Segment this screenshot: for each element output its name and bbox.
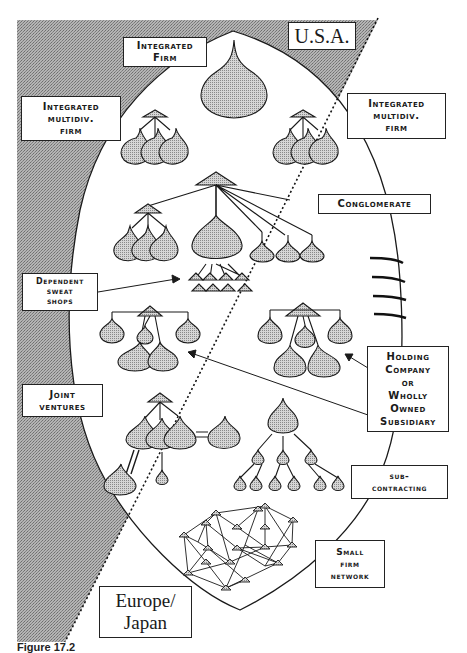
region-label-europe-japan: Europe/ Japan — [99, 586, 192, 638]
label-line: Integrated — [137, 40, 194, 52]
label-line: Small — [336, 546, 364, 558]
label-line: Joint — [50, 389, 76, 401]
label-dependent-sweat-shops: Dependent sweat shops — [22, 273, 98, 311]
label-line: multidiv. — [48, 113, 94, 125]
label-sub-contracting: sub- contracting — [351, 465, 448, 499]
label-line: Holding — [387, 350, 430, 363]
label-line: network — [331, 570, 369, 582]
label-integrated-multidiv-right: Integrated multidiv. firm — [347, 93, 446, 139]
sweat-shops-shape — [189, 264, 252, 291]
label-line: Dependent — [36, 277, 84, 287]
label-line: sub- — [390, 470, 410, 482]
multidiv-right-shape — [273, 110, 338, 164]
label-line: contracting — [372, 482, 427, 494]
label-line: Integrated — [43, 101, 100, 113]
label-line: Subsidiary — [380, 415, 436, 428]
label-small-firm-network: Small firm network — [315, 540, 385, 588]
label-conglomerate: Conglomerate — [318, 194, 431, 214]
label-line: Firm — [153, 52, 177, 64]
figure-caption: Figure 17.2 — [17, 641, 75, 653]
label-joint-ventures: Joint ventures — [22, 384, 103, 417]
holding-company-right-shape — [258, 303, 352, 377]
label-line: sweat — [47, 287, 73, 297]
label-line: Company — [385, 363, 430, 376]
multidiv-left-shape — [121, 110, 188, 164]
label-line: Wholly — [388, 389, 427, 402]
japan-text: Japan — [124, 612, 167, 634]
usa-text: U.S.A. — [294, 25, 349, 47]
label-line: or — [402, 376, 415, 389]
label-line: firm — [60, 125, 82, 137]
label-line: firm — [340, 558, 359, 570]
holding-company-left-shape — [100, 306, 200, 371]
joint-ventures-shape — [104, 393, 240, 495]
integrated-firm-shape — [201, 40, 267, 118]
subcontracting-shape — [234, 398, 344, 491]
label-line: firm — [385, 122, 407, 134]
europe-text: Europe/ — [115, 590, 175, 612]
conglomerate-shape — [114, 172, 324, 262]
label-line: Integrated — [368, 98, 425, 110]
label-line: multidiv. — [373, 110, 419, 122]
label-line: ventures — [39, 401, 86, 413]
label-line: shops — [47, 297, 73, 307]
label-line: Owned — [390, 402, 426, 415]
label-line: Conglomerate — [338, 198, 412, 210]
label-integrated-multidiv-left: Integrated multidiv. firm — [21, 96, 121, 141]
small-firm-network-shape — [179, 503, 298, 590]
region-label-usa: U.S.A. — [288, 22, 356, 50]
label-integrated-firm: Integrated Firm — [123, 37, 207, 67]
label-holding-company: Holding Company or Wholly Owned Subsidia… — [367, 346, 449, 432]
